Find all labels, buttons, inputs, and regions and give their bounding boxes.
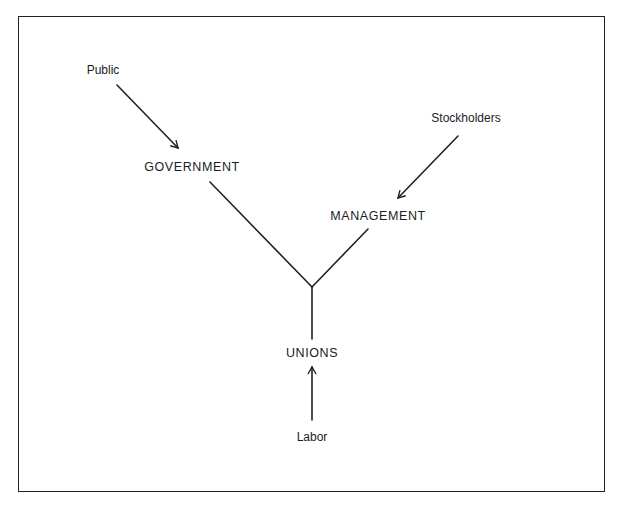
arrow-stockholders-to-management	[398, 136, 458, 198]
node-unions: UNIONS	[286, 347, 338, 360]
diagram-canvas: Public GOVERNMENT Stockholders MANAGEMEN…	[0, 0, 622, 513]
node-management: MANAGEMENT	[330, 210, 426, 223]
node-public: Public	[87, 64, 120, 76]
node-labor: Labor	[297, 431, 328, 443]
line-government-to-junction	[210, 182, 312, 287]
edges	[117, 85, 458, 420]
arrow-public-to-government	[117, 85, 178, 148]
line-management-to-junction	[312, 229, 368, 287]
node-stockholders: Stockholders	[431, 112, 500, 124]
node-government: GOVERNMENT	[144, 161, 240, 174]
